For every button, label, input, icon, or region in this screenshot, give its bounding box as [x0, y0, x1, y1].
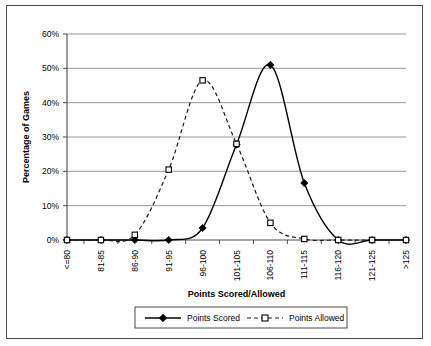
- data-point-marker: [336, 237, 341, 242]
- series-line: [67, 64, 406, 244]
- chart-frame: 0%10%20%30%40%50%60%<=8081-8586-9091-959…: [6, 5, 423, 339]
- data-point-marker: [132, 232, 137, 237]
- x-tick-label: 91-95: [164, 250, 174, 272]
- x-tick-label: 81-85: [96, 250, 106, 272]
- data-point-marker: [268, 220, 273, 225]
- series-line: [67, 80, 406, 241]
- x-tick-labels: <=8081-8586-9091-9596-100101-105106-1101…: [62, 240, 411, 281]
- y-tick-label: 60%: [42, 29, 59, 39]
- y-tick-label: 30%: [42, 132, 59, 142]
- x-tick-label: 111-115: [299, 250, 309, 280]
- legend-label-points-allowed: Points Allowed: [289, 313, 345, 323]
- chart-legend: Points ScoredPoints Allowed: [135, 307, 347, 328]
- data-point-marker: [369, 237, 374, 242]
- axis-titles: Points Scored/AllowedPercentage of Games: [21, 91, 285, 299]
- x-tick-label: 121-125: [367, 250, 377, 281]
- legend-marker-square-icon: [262, 315, 268, 321]
- y-tick-label: 0%: [47, 235, 60, 245]
- x-tick-label: 96-100: [198, 250, 208, 277]
- data-point-marker: [403, 237, 408, 242]
- data-point-marker: [64, 237, 69, 242]
- data-point-marker: [200, 78, 205, 83]
- x-tick-label: 86-90: [130, 250, 140, 272]
- data-point-marker: [166, 167, 171, 172]
- x-tick-label: 106-110: [265, 250, 275, 281]
- x-tick-label: >125: [401, 250, 411, 269]
- data-point-marker: [234, 141, 239, 146]
- legend-label-points-scored: Points Scored: [187, 313, 240, 323]
- x-axis-title: Points Scored/Allowed: [188, 289, 286, 299]
- data-point-marker: [98, 237, 103, 242]
- series-points-scored: [63, 61, 409, 244]
- y-tick-label: 40%: [42, 98, 59, 108]
- y-axis-title: Percentage of Games: [21, 91, 31, 183]
- x-tick-label: 101-105: [232, 250, 242, 281]
- data-point-marker: [165, 236, 172, 243]
- chart-page: 0%10%20%30%40%50%60%<=8081-8586-9091-959…: [0, 0, 431, 346]
- x-tick-label: <=80: [62, 250, 72, 270]
- data-point-marker: [301, 179, 308, 186]
- data-point-marker: [302, 236, 307, 241]
- y-tick-label: 50%: [42, 63, 59, 73]
- y-tick-label: 20%: [42, 166, 59, 176]
- x-tick-label: 116-120: [333, 250, 343, 281]
- y-gridlines: 0%10%20%30%40%50%60%: [42, 29, 406, 245]
- y-tick-label: 10%: [42, 201, 59, 211]
- chart-plot-area: 0%10%20%30%40%50%60%<=8081-8586-9091-959…: [7, 6, 422, 338]
